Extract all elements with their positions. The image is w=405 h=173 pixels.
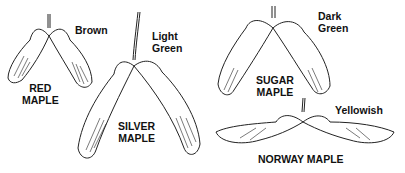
name-text: NORWAY MAPLE	[258, 153, 344, 165]
red-maple-color-label: Brown	[75, 24, 108, 36]
color-text: Yellowish	[335, 104, 383, 116]
name-line-2: MAPLE	[22, 94, 59, 106]
color-line-2: Green	[318, 22, 348, 34]
norway-maple-color-label: Yellowish	[335, 104, 383, 116]
color-text: Brown	[75, 24, 108, 36]
name-line-2: MAPLE	[256, 86, 294, 98]
color-line-1: Light	[152, 30, 182, 42]
color-line-1: Dark	[318, 10, 348, 22]
color-line-2: Green	[152, 42, 182, 54]
sugar-maple-name-label: SUGAR MAPLE	[256, 74, 294, 98]
silver-maple-name-label: SILVER MAPLE	[118, 120, 155, 144]
name-line-1: SUGAR	[256, 74, 294, 86]
red-maple-name-label: RED MAPLE	[22, 82, 59, 106]
silver-maple-color-label: Light Green	[152, 30, 182, 54]
name-line-1: RED	[22, 82, 59, 94]
name-line-2: MAPLE	[118, 132, 155, 144]
sugar-maple-color-label: Dark Green	[318, 10, 348, 34]
name-line-1: SILVER	[118, 120, 155, 132]
norway-maple-name-label: NORWAY MAPLE	[258, 153, 344, 165]
